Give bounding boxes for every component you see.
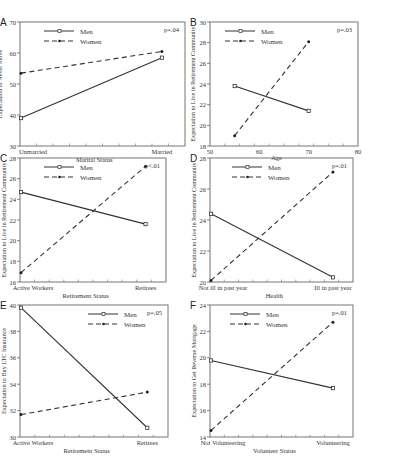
panel-letter: F bbox=[190, 301, 196, 311]
y-tick-label: 24 bbox=[10, 196, 17, 203]
marker-square bbox=[307, 109, 310, 112]
marker-square bbox=[19, 117, 22, 120]
y-tick-label: 28 bbox=[200, 155, 207, 162]
marker-square bbox=[209, 212, 212, 215]
chart-panel-a: A3040506070UnmarriedMarriedMarital Statu… bbox=[0, 18, 193, 172]
y-tick-label: 70 bbox=[10, 19, 17, 26]
x-category-label: Retirees bbox=[137, 439, 159, 446]
y-tick-label: 22 bbox=[10, 217, 17, 224]
marker-square bbox=[209, 359, 212, 362]
marker-square bbox=[144, 223, 147, 226]
y-tick-label: 18 bbox=[200, 381, 207, 388]
marker-dot bbox=[331, 321, 334, 324]
marker-dot bbox=[20, 72, 23, 75]
series-line-women bbox=[235, 42, 309, 136]
x-axis-title: Retirement Status bbox=[63, 447, 110, 454]
p-value-annotation: p<.01 bbox=[145, 162, 160, 169]
panel-letter: E bbox=[0, 301, 7, 311]
y-tick-label: 30 bbox=[200, 19, 207, 26]
y-tick-label: 38 bbox=[10, 328, 17, 335]
y-tick-label: 36 bbox=[10, 354, 17, 361]
x-category-label: Not Volunteering bbox=[201, 439, 246, 446]
y-tick-label: 22 bbox=[200, 101, 207, 108]
marker-square bbox=[331, 387, 334, 390]
y-tick-label: 28 bbox=[200, 39, 207, 46]
marker-dot bbox=[20, 271, 23, 274]
y-tick-label: 18 bbox=[200, 143, 207, 150]
x-category-label: Active Workers bbox=[13, 439, 54, 446]
y-tick-label: 18 bbox=[10, 258, 17, 265]
series-line-women bbox=[21, 51, 162, 73]
legend-label-women: Women bbox=[268, 174, 290, 182]
x-axis-title: Volunteer Status bbox=[253, 447, 296, 454]
p-value-annotation: p=.05 bbox=[147, 309, 162, 316]
y-axis-title: Expectation to Buy LTC Insurance bbox=[0, 328, 7, 414]
y-tick-label: 24 bbox=[200, 217, 207, 224]
y-tick-label: 50 bbox=[10, 81, 17, 88]
y-tick-label: 24 bbox=[200, 81, 207, 88]
x-category-label: Volunteering bbox=[316, 439, 350, 446]
series-line-men bbox=[211, 360, 333, 388]
marker-square bbox=[19, 191, 22, 194]
marker-dot bbox=[331, 170, 334, 173]
y-axis-title: Expectation to Get Reverse Mortgage bbox=[190, 324, 197, 418]
y-tick-label: 34 bbox=[10, 381, 17, 388]
chart-panel-f: F141618202224Not VolunteeringVolunteerin… bbox=[188, 301, 361, 463]
legend-label-women: Women bbox=[80, 38, 102, 46]
y-tick-label: 40 bbox=[10, 302, 17, 309]
y-tick-label: 40 bbox=[10, 112, 17, 119]
chart-panel-d: D2022242628Not ill in past yearIll in pa… bbox=[188, 154, 361, 308]
marker-dot bbox=[233, 134, 236, 137]
x-axis-title: Health bbox=[266, 292, 284, 299]
series-line-men bbox=[211, 214, 333, 278]
x-category-label: Not ill in past year bbox=[199, 284, 248, 291]
legend-label-men: Men bbox=[80, 164, 93, 172]
marker-square bbox=[331, 276, 334, 279]
y-tick-label: 20 bbox=[10, 237, 17, 244]
y-axis-title: Expectation to Live in Retirement Commun… bbox=[190, 161, 197, 277]
marker-dot bbox=[20, 413, 23, 416]
y-tick-label: 60 bbox=[10, 50, 17, 57]
series-line-women bbox=[211, 322, 333, 430]
panel-letter: A bbox=[0, 18, 7, 28]
y-axis-title: Expectation to Live in Retirement Commun… bbox=[0, 161, 7, 277]
marker-dot bbox=[210, 279, 213, 282]
chart-panel-e: E303234363840Active WorkersRetireesRetir… bbox=[0, 301, 176, 463]
plot-frame bbox=[20, 305, 168, 437]
marker-square bbox=[160, 56, 163, 59]
marker-dot bbox=[160, 50, 163, 53]
series-line-men bbox=[235, 86, 309, 111]
y-tick-label: 28 bbox=[10, 155, 17, 162]
legend-label-men: Men bbox=[124, 311, 137, 319]
p-value-annotation: p=.01 bbox=[332, 309, 347, 316]
y-tick-label: 26 bbox=[10, 175, 17, 182]
y-axis-title: Expectation to Live in Retirement Commun… bbox=[189, 25, 196, 141]
y-tick-label: 32 bbox=[10, 407, 17, 414]
chart-panel-b: B1820222426283050607080AgeExpectation to… bbox=[183, 18, 366, 172]
p-value-annotation: p=.04 bbox=[164, 26, 180, 33]
y-tick-label: 20 bbox=[200, 354, 207, 361]
x-category-label: Ill in past year bbox=[314, 284, 352, 291]
marker-dot bbox=[210, 429, 213, 432]
y-tick-label: 22 bbox=[200, 248, 207, 255]
series-line-women bbox=[21, 392, 147, 414]
chart-panel-c: C16182022242628Active WorkersRetireesRet… bbox=[0, 154, 174, 308]
marker-square bbox=[146, 426, 149, 429]
legend-label-men: Men bbox=[261, 28, 274, 36]
plot-frame bbox=[210, 22, 358, 146]
legend-label-men: Men bbox=[266, 311, 279, 319]
x-category-label: Active Workers bbox=[13, 284, 54, 291]
y-axis-title: Expectation to Never Move bbox=[0, 49, 3, 118]
series-line-women bbox=[211, 172, 333, 281]
y-tick-label: 16 bbox=[200, 407, 207, 414]
legend-label-men: Men bbox=[268, 164, 281, 172]
legend-label-women: Women bbox=[124, 321, 146, 329]
y-tick-label: 30 bbox=[10, 143, 17, 150]
series-line-men bbox=[21, 58, 162, 118]
p-value-annotation: p=.01 bbox=[332, 162, 347, 169]
y-tick-label: 26 bbox=[200, 186, 207, 193]
y-tick-label: 24 bbox=[200, 302, 207, 309]
marker-square bbox=[233, 84, 236, 87]
x-axis-title: Retirement Status bbox=[62, 292, 109, 299]
marker-square bbox=[19, 306, 22, 309]
